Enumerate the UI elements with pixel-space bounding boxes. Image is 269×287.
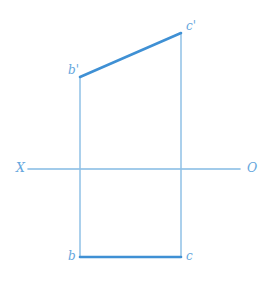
vertex-label-c-prime: c' <box>186 20 196 32</box>
segment-b-prime-c-prime <box>80 33 181 77</box>
axis-label-o: O <box>247 162 257 175</box>
projection-drawing <box>0 0 269 287</box>
vertex-label-c: c <box>186 250 193 262</box>
vertex-label-b-prime: b' <box>68 64 79 76</box>
vertex-label-b: b <box>68 250 76 262</box>
axis-label-x: X <box>16 162 25 175</box>
drawing-canvas: X O b' c' b c <box>0 0 269 287</box>
